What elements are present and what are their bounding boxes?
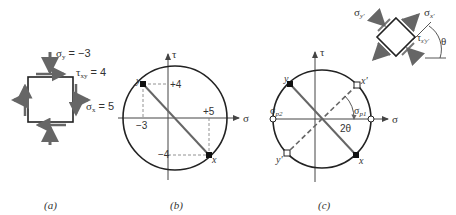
mohr-circle-diagram: σy = −3 τxy = 4 σx = 5 (a) σ τ y x +4 −3…	[0, 0, 456, 215]
tick-plus4: +4	[170, 79, 182, 90]
sigma-yp-arrow-in-2	[408, 49, 418, 59]
sigma-yp-arrow-in	[374, 15, 384, 25]
mohr-circle-b: σ τ y x +4 −3 +5 −4	[118, 48, 249, 180]
svg-text:y: y	[283, 73, 289, 84]
caption-b: (b)	[170, 199, 183, 212]
caption-c: (c)	[318, 199, 331, 212]
svg-text:x: x	[211, 154, 217, 165]
tick-minus4: −4	[158, 149, 170, 160]
sigma-xp-arrow-out-2	[374, 49, 384, 59]
point-y	[140, 81, 146, 87]
theta-label: θ	[441, 35, 446, 47]
sigma-yp-label: σy′	[354, 6, 365, 20]
tick-plus5: +5	[203, 106, 215, 117]
sigma-y-label: σy = −3	[56, 47, 91, 61]
svg-text:y: y	[135, 75, 141, 86]
svg-text:x: x	[358, 155, 364, 166]
caption-a: (a)	[44, 199, 57, 212]
sigma-axis-label: σ	[392, 113, 398, 125]
point-xp	[354, 82, 360, 88]
tau-axis-label: τ	[320, 46, 325, 58]
sigma-axis-label: σ	[243, 112, 249, 124]
tick-minus3: −3	[136, 120, 148, 131]
two-theta-arc	[345, 96, 354, 119]
diameter-line	[143, 84, 209, 155]
point-sigma-p1	[368, 116, 374, 122]
tau-xy-label: τxy = 4	[76, 66, 106, 80]
stress-element-a: σy = −3 τxy = 4 σx = 5	[14, 47, 114, 145]
sigma-xp-arrow-out	[408, 15, 418, 25]
two-theta-label: 2θ	[340, 123, 352, 134]
mohr-circle-c: σ τ 2θ y x x′ y′ σp1 σp2	[270, 46, 398, 182]
sigma-x-label: σx = 5	[86, 100, 114, 114]
sigma-p1-label: σp1	[354, 105, 366, 118]
rotated-stress-element: σy′ σx′ τx′y′ θ	[354, 6, 446, 59]
point-yp	[284, 150, 290, 156]
element-square	[28, 77, 73, 122]
svg-text:x′: x′	[360, 75, 368, 86]
svg-text:y′: y′	[275, 154, 283, 165]
tau-axis-label: τ	[172, 48, 177, 60]
sigma-xp-label: σx′	[424, 6, 435, 20]
